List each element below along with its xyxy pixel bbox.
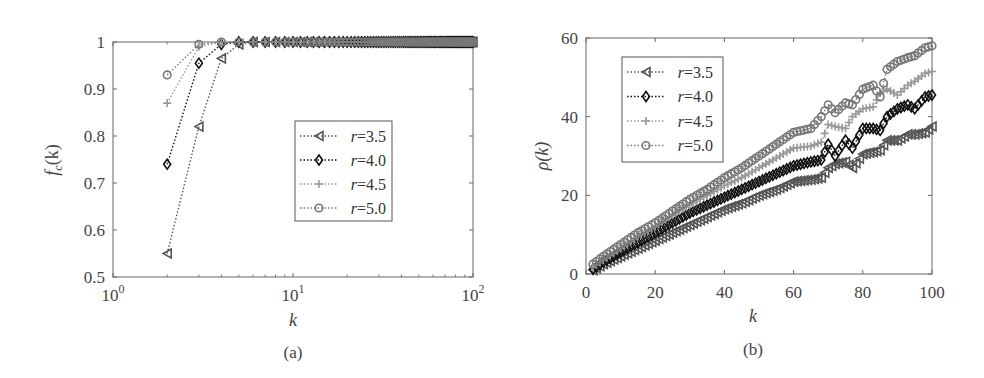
chart-b-ylabel: ρ(k)	[532, 142, 553, 172]
x-tick-label: 102	[462, 282, 485, 305]
chart-a-legend: r=3.5r=4.0r=4.5r=5.0	[295, 121, 392, 221]
diamond-marker-icon	[672, 216, 679, 226]
chart-b: 0204060020406080100 k ρ(k) (b) r=3.5r=4.…	[532, 29, 945, 359]
diamond-marker-icon	[721, 192, 728, 202]
chart-b-xlabel: k	[749, 306, 758, 326]
diamond-marker-icon	[676, 214, 683, 224]
diamond-marker-icon	[756, 177, 763, 187]
diamond-marker-icon	[908, 102, 915, 112]
x-tick-label: 100	[102, 282, 125, 305]
svg-text:r=3.5: r=3.5	[351, 128, 386, 145]
chart-b-legend: r=3.5r=4.0r=4.5r=5.0	[622, 57, 723, 162]
plus-marker-icon	[821, 129, 829, 137]
y-tick-label: 1	[97, 33, 106, 52]
y-tick-label: 0	[570, 265, 579, 284]
x-tick-label: 60	[785, 283, 802, 302]
y-tick-label: 20	[561, 186, 578, 205]
chart-a: 0.50.60.70.80.91100101102 k fc(k) (a) r=…	[42, 33, 485, 362]
triangle-left-marker-icon	[217, 54, 225, 63]
diamond-marker-icon	[704, 200, 711, 210]
y-tick-label: 0.7	[84, 174, 106, 193]
y-tick-label: 0.6	[84, 221, 105, 240]
diamond-marker-icon	[787, 162, 794, 172]
diamond-marker-icon	[762, 173, 769, 183]
svg-text:fc(k): fc(k)	[42, 144, 65, 175]
svg-text:r=3.5: r=3.5	[678, 64, 713, 81]
chart-a-xlabel: k	[289, 310, 298, 330]
svg-text:r=4.0: r=4.0	[351, 152, 386, 169]
chart-a-ticks: 0.50.60.70.80.91100101102	[84, 33, 485, 305]
series-r-4-5	[163, 38, 477, 107]
diamond-marker-icon	[752, 178, 759, 188]
diamond-marker-icon	[766, 172, 773, 182]
diamond-marker-icon	[759, 175, 766, 185]
plus-marker-icon	[163, 99, 171, 107]
diamond-marker-icon	[717, 194, 724, 204]
x-tick-label: 100	[919, 283, 945, 302]
diamond-marker-icon	[714, 195, 721, 205]
svg-text:r=5.0: r=5.0	[678, 137, 713, 154]
y-tick-label: 40	[561, 108, 578, 127]
diamond-marker-icon	[745, 181, 752, 191]
x-tick-label: 20	[647, 283, 664, 302]
x-tick-label: 80	[854, 283, 871, 302]
diamond-marker-icon	[711, 197, 718, 207]
figure: 0.50.60.70.80.91100101102 k fc(k) (a) r=…	[0, 0, 984, 378]
diamond-marker-icon	[707, 199, 714, 209]
svg-text:r=5.0: r=5.0	[351, 200, 386, 217]
diamond-marker-icon	[683, 210, 690, 220]
y-tick-label: 0.9	[84, 80, 105, 99]
svg-text:r=4.5: r=4.5	[678, 113, 713, 130]
diamond-marker-icon	[724, 191, 731, 201]
y-tick-label: 0.8	[84, 127, 105, 146]
y-tick-label: 60	[561, 29, 578, 48]
svg-text:r=4.0: r=4.0	[678, 88, 713, 105]
y-tick-label: 0.5	[84, 268, 105, 287]
chart-a-caption: (a)	[284, 343, 303, 362]
x-tick-label: 0	[582, 283, 591, 302]
chart-b-caption: (b)	[743, 340, 763, 359]
diamond-marker-icon	[679, 212, 686, 222]
x-tick-label: 40	[716, 283, 733, 302]
chart-a-ylabel: fc(k)	[42, 144, 65, 175]
svg-text:r=4.5: r=4.5	[351, 176, 386, 193]
x-tick-label: 101	[282, 282, 305, 305]
diamond-marker-icon	[749, 180, 756, 190]
